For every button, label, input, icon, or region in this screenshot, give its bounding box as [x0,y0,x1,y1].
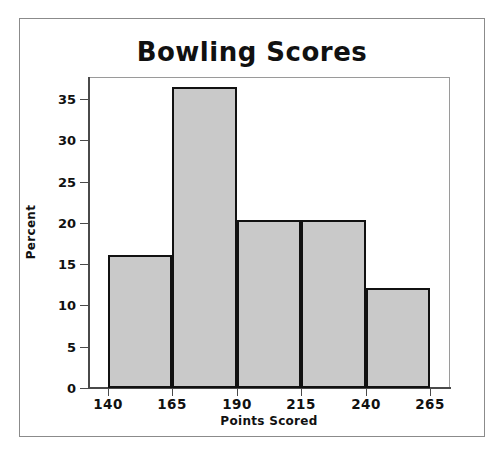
x-tick-label-190: 190 [207,396,267,412]
x-tick-240 [366,389,367,396]
y-tick-25 [80,182,88,183]
bar-165-190 [172,87,236,388]
y-tick-label-15: 15 [40,257,76,272]
chart-title: Bowling Scores [19,36,485,68]
y-tick-10 [80,305,88,306]
x-axis-title: Points Scored [88,414,450,428]
x-tick-label-240: 240 [336,396,396,412]
y-tick-20 [80,223,88,224]
x-tick-265 [430,389,431,396]
y-axis-title: Percent [24,182,38,282]
y-tick-labels: 0 5 10 15 20 25 30 35 [36,0,76,453]
x-tick-215 [301,389,302,396]
x-tick-label-265: 265 [400,396,460,412]
y-tick-5 [80,347,88,348]
x-tick-label-140: 140 [78,396,138,412]
y-tick-35 [80,99,88,100]
y-tick-15 [80,264,88,265]
bar-190-215 [237,220,301,388]
bar-240-265 [366,288,430,388]
y-tick-0 [80,388,88,389]
x-tick-165 [172,389,173,396]
histogram-bars [108,77,430,388]
bowling-scores-figure: Bowling Scores 0 5 10 15 20 25 30 35 140… [0,0,504,453]
y-tick-label-25: 25 [40,174,76,189]
y-tick-label-35: 35 [40,91,76,106]
y-tick-30 [80,140,88,141]
y-tick-label-30: 30 [40,133,76,148]
x-tick-label-215: 215 [271,396,331,412]
y-axis-line [88,77,90,389]
bar-215-240 [301,220,365,388]
bar-140-165 [108,255,172,388]
y-tick-label-0: 0 [40,381,76,396]
y-tick-label-20: 20 [40,215,76,230]
y-tick-label-5: 5 [40,339,76,354]
y-tick-label-10: 10 [40,298,76,313]
x-tick-140 [108,389,109,396]
x-tick-190 [237,389,238,396]
x-tick-label-165: 165 [142,396,202,412]
